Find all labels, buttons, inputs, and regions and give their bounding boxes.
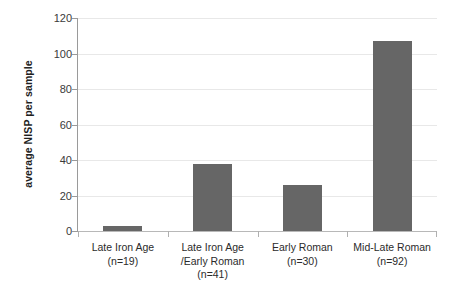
bar: [193, 164, 232, 231]
x-tickmark-0: [78, 231, 79, 237]
x-axis-label-line: Mid-Late Roman: [347, 241, 437, 255]
x-axis-label-line: (n=41): [168, 268, 258, 282]
x-axis-label-line: /Early Roman: [168, 255, 258, 269]
x-axis-label: Late Iron Age/Early Roman(n=41): [168, 238, 258, 294]
bar: [283, 185, 322, 231]
x-axis-label-line: (n=19): [78, 255, 168, 269]
x-axis-label: Early Roman(n=30): [258, 238, 348, 294]
x-axis-label-line: (n=92): [347, 255, 437, 269]
gridline-120: [78, 18, 437, 19]
plot-area: [78, 18, 437, 231]
x-axis-label-line: Late Iron Age: [168, 241, 258, 255]
x-axis-label-line: (n=30): [258, 255, 348, 269]
x-axis-label: Mid-Late Roman(n=92): [347, 238, 437, 294]
x-tickmark-1: [168, 231, 169, 237]
x-axis-tickmarks: [78, 231, 437, 238]
x-tickmark-3: [347, 231, 348, 237]
x-axis-labels: Late Iron Age(n=19)Late Iron Age/Early R…: [78, 238, 437, 294]
x-axis-label-line: Early Roman: [258, 241, 348, 255]
bar-chart: average NISP per sample 020406080100120 …: [0, 0, 457, 296]
x-axis-label-line: Late Iron Age: [78, 241, 168, 255]
x-axis-label: Late Iron Age(n=19): [78, 238, 168, 294]
x-tickmark-2: [258, 231, 259, 237]
bar: [373, 41, 412, 231]
y-axis-tickmarks: [0, 18, 80, 231]
x-tickmark-4: [436, 231, 437, 237]
